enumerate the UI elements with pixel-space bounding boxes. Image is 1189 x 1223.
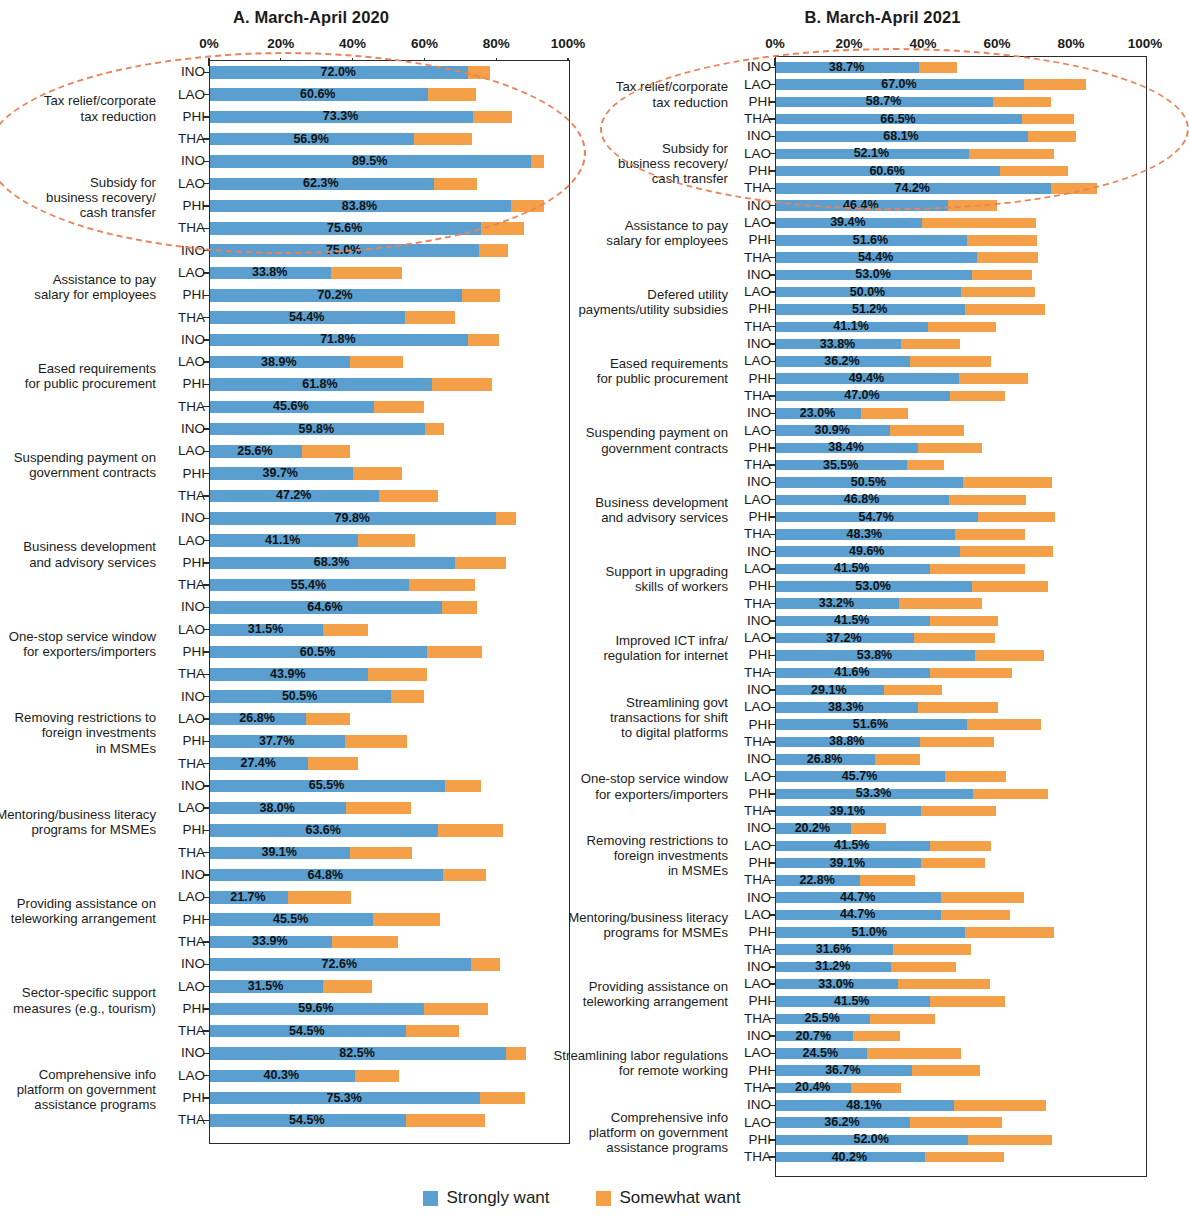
stacked-bar xyxy=(210,1114,485,1127)
row-country-code: THA xyxy=(159,577,205,592)
row-country-code: INO xyxy=(159,689,205,704)
row-country-code: INO xyxy=(159,64,205,79)
bar-value-label: 36.2% xyxy=(824,354,859,368)
row-country-code: LAO xyxy=(159,711,205,726)
stacked-bar xyxy=(776,1152,1004,1163)
stacked-bar xyxy=(776,1100,1046,1111)
bar-value-label: 52.0% xyxy=(853,1132,888,1146)
chart-legend: Strongly want Somewhat want xyxy=(0,1188,1163,1208)
stacked-bar xyxy=(210,490,438,503)
bar-segment-somewhat-want xyxy=(511,200,544,213)
bar-segment-somewhat-want xyxy=(928,322,996,333)
bar-value-label: 38.9% xyxy=(261,355,296,369)
bar-segment-somewhat-want xyxy=(288,891,351,904)
stacked-bar xyxy=(776,425,964,436)
bar-value-label: 53.0% xyxy=(855,579,890,593)
row-country-code: PHI xyxy=(729,440,771,455)
row-country-code: INO xyxy=(159,332,205,347)
group-label: One-stop service window for exporters/im… xyxy=(0,629,156,659)
bar-segment-somewhat-want xyxy=(965,927,1054,938)
bar-value-label: 53.0% xyxy=(855,267,890,281)
row-country-code: THA xyxy=(729,388,771,403)
bar-value-label: 30.9% xyxy=(814,423,849,437)
bar-segment-somewhat-want xyxy=(912,1065,980,1076)
bar-value-label: 36.7% xyxy=(825,1063,860,1077)
row-country-code: PHI xyxy=(159,644,205,659)
bar-value-label: 60.5% xyxy=(300,645,335,659)
stacked-bar xyxy=(776,581,1048,592)
row-country-code: LAO xyxy=(729,976,771,991)
row-country-code: LAO xyxy=(729,1045,771,1060)
bar-segment-somewhat-want xyxy=(480,1092,525,1105)
bar-value-label: 31.2% xyxy=(815,959,850,973)
row-country-code: THA xyxy=(729,596,771,611)
bar-segment-somewhat-want xyxy=(468,334,499,347)
bar-value-label: 75.6% xyxy=(327,221,362,235)
stacked-bar xyxy=(210,646,482,659)
row-country-code: INO xyxy=(729,751,771,766)
bar-value-label: 20.4% xyxy=(795,1080,830,1094)
bar-value-label: 75.3% xyxy=(326,1091,361,1105)
chart-row: THA43.9% xyxy=(0,668,582,690)
row-country-code: INO xyxy=(729,128,771,143)
bar-segment-somewhat-want xyxy=(941,910,1009,921)
stacked-bar xyxy=(776,754,920,765)
group-label: Business development and advisory servic… xyxy=(478,495,728,525)
row-country-code: PHI xyxy=(159,1001,205,1016)
row-country-code: LAO xyxy=(729,561,771,576)
row-country-code: PHI xyxy=(729,717,771,732)
stacked-bar xyxy=(210,757,358,770)
chart-row: INO33.8% xyxy=(582,339,1163,356)
bar-segment-somewhat-want xyxy=(867,1048,961,1059)
bar-value-label: 54.7% xyxy=(858,510,893,524)
row-country-code: LAO xyxy=(729,423,771,438)
bar-segment-somewhat-want xyxy=(930,996,1006,1007)
bar-segment-somewhat-want xyxy=(414,133,472,146)
stacked-bar xyxy=(776,616,998,627)
bar-value-label: 41.5% xyxy=(834,613,869,627)
stacked-bar xyxy=(210,735,407,748)
bar-segment-somewhat-want xyxy=(969,149,1054,160)
bar-segment-somewhat-want xyxy=(975,650,1044,661)
bar-segment-somewhat-want xyxy=(930,668,1013,679)
bar-value-label: 67.0% xyxy=(881,77,916,91)
bar-segment-somewhat-want xyxy=(930,841,991,852)
stacked-bar xyxy=(776,443,982,454)
stacked-bar xyxy=(776,650,1044,661)
bar-value-label: 47.0% xyxy=(844,388,879,402)
legend-label-strongly-want: Strongly want xyxy=(447,1188,550,1208)
row-country-code: THA xyxy=(729,526,771,541)
stacked-bar xyxy=(776,460,944,471)
bar-segment-somewhat-want xyxy=(355,1070,399,1083)
bar-segment-somewhat-want xyxy=(965,304,1045,315)
stacked-bar xyxy=(776,149,1054,160)
bar-segment-somewhat-want xyxy=(949,495,1026,506)
bar-value-label: 45.5% xyxy=(273,912,308,926)
row-country-code: LAO xyxy=(159,265,205,280)
stacked-bar xyxy=(210,111,512,124)
bar-segment-somewhat-want xyxy=(968,1135,1051,1146)
bar-segment-somewhat-want xyxy=(406,1025,459,1038)
bar-value-label: 36.2% xyxy=(824,1115,859,1129)
stacked-bar xyxy=(210,601,477,614)
group-label: Streamlining labor regulations for remot… xyxy=(478,1048,728,1078)
stacked-bar xyxy=(776,668,1012,679)
stacked-bar xyxy=(776,79,1086,90)
row-country-code: INO xyxy=(729,267,771,282)
bar-value-label: 41.6% xyxy=(834,665,869,679)
row-country-code: INO xyxy=(159,510,205,525)
bar-segment-somewhat-want xyxy=(332,936,398,949)
stacked-bar xyxy=(776,685,943,696)
bar-value-label: 44.7% xyxy=(840,890,875,904)
row-country-code: INO xyxy=(159,243,205,258)
bar-segment-somewhat-want xyxy=(973,789,1047,800)
chart-row: THA54.5% xyxy=(0,1025,582,1047)
bar-value-label: 29.1% xyxy=(811,683,846,697)
chart-row: THA41.1% xyxy=(582,322,1163,339)
chart-row: THA39.1% xyxy=(582,806,1163,823)
row-country-code: PHI xyxy=(729,1063,771,1078)
bar-segment-somewhat-want xyxy=(350,356,403,369)
bar-value-label: 33.8% xyxy=(820,337,855,351)
group-label: Eased requirements for public procuremen… xyxy=(0,361,156,391)
